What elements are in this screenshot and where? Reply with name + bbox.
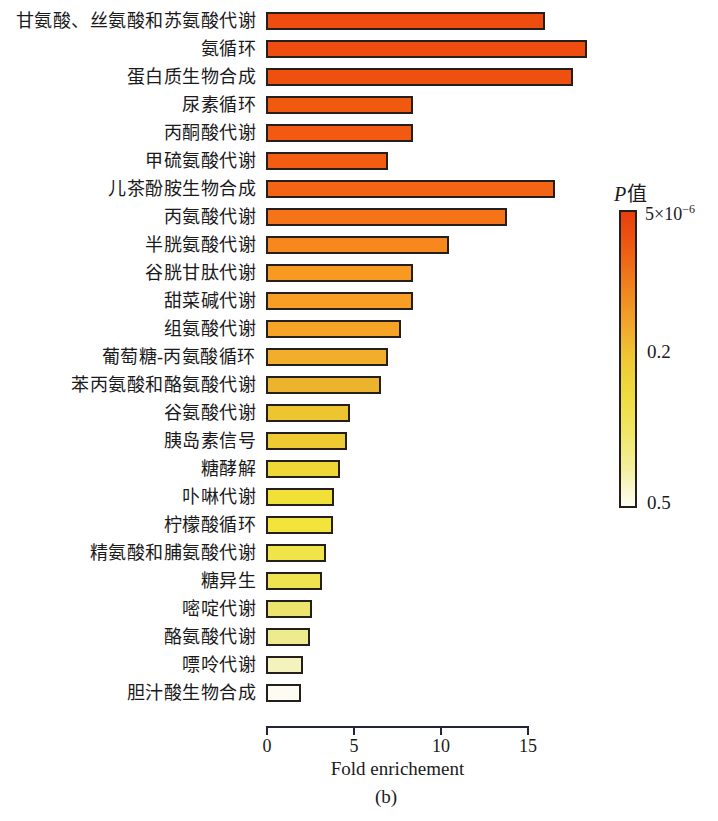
bar-row: 氨循环 xyxy=(0,39,587,59)
bar-row: 嘧啶代谢 xyxy=(0,599,312,619)
bar-row: 半胱氨酸代谢 xyxy=(0,235,449,255)
bar xyxy=(266,96,413,114)
bar xyxy=(266,572,322,590)
category-label: 精氨酸和脯氨酸代谢 xyxy=(0,543,256,563)
bar xyxy=(266,208,507,226)
x-tick-label: 5 xyxy=(334,736,374,757)
bar xyxy=(266,40,587,58)
colorbar-max-exponent: −6 xyxy=(682,202,695,216)
category-label: 儿茶酚胺生物合成 xyxy=(0,179,256,199)
bar xyxy=(266,656,303,674)
x-tick-mark xyxy=(266,726,268,735)
x-axis-line xyxy=(266,726,529,728)
bar-row: 尿素循环 xyxy=(0,95,413,115)
bar xyxy=(266,684,301,702)
bar xyxy=(266,348,388,366)
colorbar-max-base: 5×10 xyxy=(645,204,682,224)
category-label: 苯丙氨酸和酪氨酸代谢 xyxy=(0,375,256,395)
category-label: 蛋白质生物合成 xyxy=(0,67,256,87)
bar xyxy=(266,292,413,310)
bar-row: 谷胱甘肽代谢 xyxy=(0,263,413,283)
bar xyxy=(266,600,312,618)
bar xyxy=(266,180,555,198)
colorbar-mid-label: 0.2 xyxy=(647,341,671,363)
enrichment-bar-chart: 甘氨酸、丝氨酸和苏氨酸代谢氨循环蛋白质生物合成尿素循环丙酮酸代谢甲硫氨酸代谢儿茶… xyxy=(0,0,718,821)
bar-row: 酪氨酸代谢 xyxy=(0,627,310,647)
bar xyxy=(266,376,381,394)
bar-row: 苯丙氨酸和酪氨酸代谢 xyxy=(0,375,381,395)
bar xyxy=(266,320,401,338)
bar xyxy=(266,432,347,450)
bar-row: 葡萄糖-丙氨酸循环 xyxy=(0,347,388,367)
bar-row: 柠檬酸循环 xyxy=(0,515,333,535)
figure-caption: (b) xyxy=(266,786,506,808)
category-label: 葡萄糖-丙氨酸循环 xyxy=(0,347,256,367)
legend-title: P值 xyxy=(614,178,647,207)
bar-row: 儿茶酚胺生物合成 xyxy=(0,179,555,199)
bar xyxy=(266,264,413,282)
colorbar xyxy=(619,210,637,508)
bar-row: 精氨酸和脯氨酸代谢 xyxy=(0,543,326,563)
bar xyxy=(266,516,333,534)
bar xyxy=(266,12,545,30)
category-label: 胰岛素信号 xyxy=(0,431,256,451)
colorbar-min-label: 0.5 xyxy=(647,492,671,514)
bar-row: 甘氨酸、丝氨酸和苏氨酸代谢 xyxy=(0,11,545,31)
bar-row: 胰岛素信号 xyxy=(0,431,347,451)
category-label: 谷胱甘肽代谢 xyxy=(0,263,256,283)
bar xyxy=(266,488,334,506)
bar xyxy=(266,236,449,254)
category-label: 组氨酸代谢 xyxy=(0,319,256,339)
bar-row: 甲硫氨酸代谢 xyxy=(0,151,388,171)
category-label: 糖异生 xyxy=(0,571,256,591)
x-tick-label: 10 xyxy=(421,736,461,757)
category-label: 酪氨酸代谢 xyxy=(0,627,256,647)
category-label: 柠檬酸循环 xyxy=(0,515,256,535)
bar-row: 蛋白质生物合成 xyxy=(0,67,573,87)
bar xyxy=(266,68,573,86)
bar-row: 卟啉代谢 xyxy=(0,487,334,507)
bar-row: 谷氨酸代谢 xyxy=(0,403,350,423)
category-label: 胆汁酸生物合成 xyxy=(0,683,256,703)
category-label: 半胱氨酸代谢 xyxy=(0,235,256,255)
x-tick-label: 0 xyxy=(247,736,287,757)
bar xyxy=(266,460,340,478)
bar xyxy=(266,628,310,646)
x-tick-mark xyxy=(353,726,355,735)
bar-row: 丙酮酸代谢 xyxy=(0,123,413,143)
category-label: 嘌呤代谢 xyxy=(0,655,256,675)
bar-row: 胆汁酸生物合成 xyxy=(0,683,301,703)
category-label: 丙氨酸代谢 xyxy=(0,207,256,227)
category-label: 甲硫氨酸代谢 xyxy=(0,151,256,171)
bar-row: 糖异生 xyxy=(0,571,322,591)
category-label: 嘧啶代谢 xyxy=(0,599,256,619)
bar-row: 丙氨酸代谢 xyxy=(0,207,507,227)
x-axis-title: Fold enrichement xyxy=(266,758,529,780)
x-tick-mark xyxy=(440,726,442,735)
colorbar-max-label: 5×10−6 xyxy=(645,202,695,225)
category-label: 卟啉代谢 xyxy=(0,487,256,507)
x-tick-label: 15 xyxy=(508,736,548,757)
category-label: 糖酵解 xyxy=(0,459,256,479)
category-label: 谷氨酸代谢 xyxy=(0,403,256,423)
bar-row: 组氨酸代谢 xyxy=(0,319,401,339)
bar xyxy=(266,544,326,562)
category-label: 甜菜碱代谢 xyxy=(0,291,256,311)
category-label: 氨循环 xyxy=(0,39,256,59)
category-label: 丙酮酸代谢 xyxy=(0,123,256,143)
category-label: 甘氨酸、丝氨酸和苏氨酸代谢 xyxy=(0,11,256,31)
bar-row: 糖酵解 xyxy=(0,459,340,479)
legend-title-symbol: P xyxy=(614,183,626,205)
bar-row: 嘌呤代谢 xyxy=(0,655,303,675)
bar xyxy=(266,124,413,142)
category-label: 尿素循环 xyxy=(0,95,256,115)
bar xyxy=(266,152,388,170)
bar-row: 甜菜碱代谢 xyxy=(0,291,413,311)
x-tick-mark xyxy=(527,726,529,735)
bar xyxy=(266,404,350,422)
